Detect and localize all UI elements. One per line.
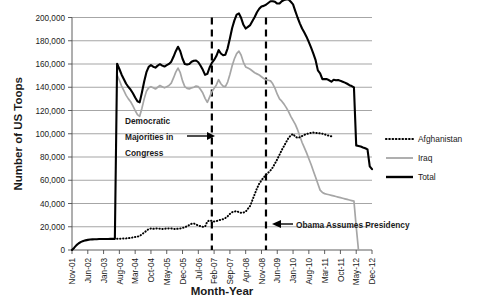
y-axis-title: Number of US Toops bbox=[12, 77, 24, 191]
x-tick-label: Feb-07 bbox=[210, 258, 219, 284]
x-tick-label: Mar-11 bbox=[321, 258, 330, 284]
x-tick-label: Jul-06 bbox=[195, 258, 204, 281]
annotation-dem-line2: Majorities in bbox=[125, 132, 173, 142]
x-tick-label: Nov-01 bbox=[68, 258, 77, 285]
y-tick-label: 160,000 bbox=[35, 60, 65, 69]
x-axis-title: Month-Year bbox=[191, 285, 254, 297]
x-tick-label: Jan-03 bbox=[100, 258, 109, 283]
x-tick-label: Jan-10 bbox=[289, 258, 298, 283]
y-tick-label: 200,000 bbox=[35, 14, 65, 23]
annotation-obama-presidency: Obama Assumes Presidency bbox=[272, 220, 410, 230]
legend-item-iraq[interactable]: Iraq bbox=[386, 153, 433, 163]
y-axis-tick-labels: 200,000180,000160,000140,000120,000100,0… bbox=[35, 14, 65, 256]
y-tick-label: 40,000 bbox=[40, 200, 65, 209]
y-tick-label: 180,000 bbox=[35, 37, 65, 46]
legend-item-afghanistan[interactable]: Afghanistan bbox=[386, 134, 463, 144]
x-tick-label: Jun-02 bbox=[84, 258, 93, 283]
annotation-dem-line3: Congress bbox=[125, 148, 164, 158]
x-axis-tick-marks bbox=[72, 250, 372, 254]
x-tick-label: Oct-11 bbox=[337, 258, 346, 282]
x-tick-label: Dec-05 bbox=[179, 258, 188, 285]
y-tick-label: 20,000 bbox=[40, 223, 65, 232]
chart-legend: Afghanistan Iraq Total bbox=[386, 134, 463, 182]
legend-label-iraq: Iraq bbox=[418, 153, 433, 163]
y-tick-label: 120,000 bbox=[35, 107, 65, 116]
x-tick-label: Apr-08 bbox=[242, 258, 251, 283]
troop-levels-line-chart: 200,000180,000160,000140,000120,000100,0… bbox=[0, 0, 483, 303]
annotation-democratic-majorities: Democratic Majorities in Congress bbox=[125, 116, 215, 158]
x-tick-label: Aug-03 bbox=[116, 258, 125, 285]
y-tick-label: 140,000 bbox=[35, 83, 65, 92]
x-tick-label: Dec-12 bbox=[368, 258, 377, 285]
x-tick-label: May-12 bbox=[352, 258, 361, 286]
series-line-total bbox=[72, 0, 372, 250]
annotation-dem-line1: Democratic bbox=[125, 116, 171, 126]
x-axis-tick-labels: Nov-01Jun-02Jan-03Aug-03Mar-04Oct-04May-… bbox=[68, 258, 377, 286]
x-tick-label: Nov-08 bbox=[258, 258, 267, 285]
x-tick-label: May-05 bbox=[163, 258, 172, 286]
x-tick-label: Oct-04 bbox=[147, 258, 156, 283]
chart-page: 200,000180,000160,000140,000120,000100,0… bbox=[0, 0, 483, 303]
legend-item-total[interactable]: Total bbox=[386, 172, 436, 182]
y-tick-label: 80,000 bbox=[40, 153, 65, 162]
annotation-obama-label: Obama Assumes Presidency bbox=[296, 220, 410, 230]
x-tick-label: Aug-10 bbox=[305, 258, 314, 285]
y-axis-tick-marks bbox=[68, 18, 72, 251]
legend-label-total: Total bbox=[418, 172, 436, 182]
x-tick-label: Sep-07 bbox=[226, 258, 235, 285]
x-tick-label: Mar-04 bbox=[131, 258, 140, 284]
x-tick-label: Jun-09 bbox=[273, 258, 282, 283]
y-tick-label: 100,000 bbox=[35, 130, 65, 139]
legend-label-afghanistan: Afghanistan bbox=[418, 134, 463, 144]
y-tick-label: 0 bbox=[60, 246, 65, 255]
y-tick-label: 60,000 bbox=[40, 176, 65, 185]
